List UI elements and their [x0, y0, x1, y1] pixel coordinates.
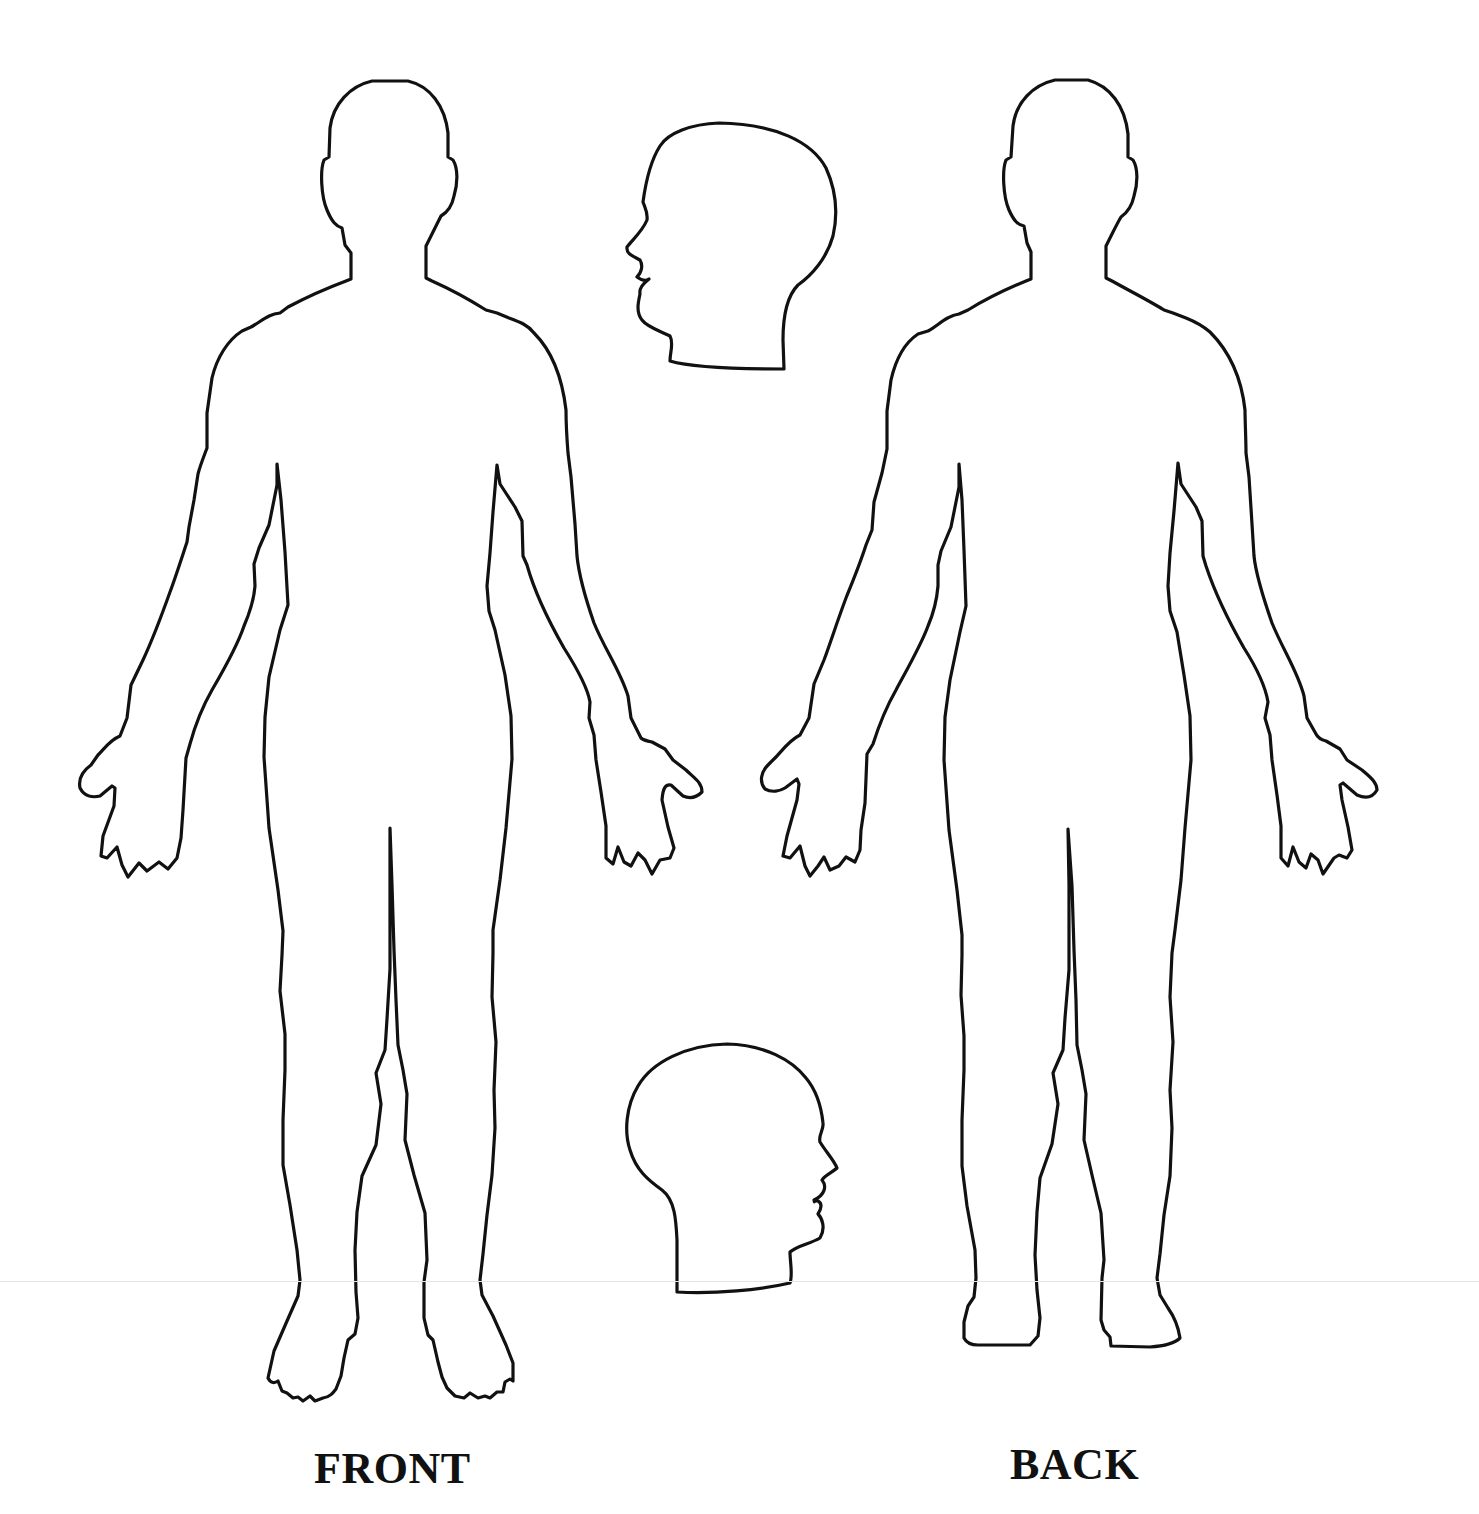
back-label: BACK: [1010, 1443, 1139, 1487]
front-label: FRONT: [314, 1447, 471, 1491]
body-diagram: FRONT BACK: [0, 0, 1479, 1514]
body-diagram-svg: [0, 0, 1479, 1514]
front-body-outline: [80, 81, 702, 1401]
scan-artifact-line: [0, 1281, 1479, 1282]
head-profile-left-outline: [627, 123, 836, 369]
back-body-outline: [761, 80, 1377, 1347]
head-profile-right-outline: [627, 1044, 837, 1293]
